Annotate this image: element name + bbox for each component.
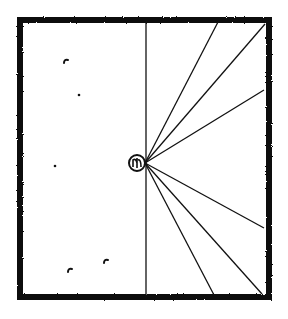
frame-right [266, 17, 272, 300]
center-circle-glyph-icon [129, 155, 145, 171]
frame-bottom [17, 294, 272, 300]
dot-mark [54, 165, 57, 168]
frame-left [17, 17, 23, 300]
sundial-diagram [0, 0, 288, 319]
frame-top [17, 17, 272, 23]
dot-mark [78, 94, 81, 97]
